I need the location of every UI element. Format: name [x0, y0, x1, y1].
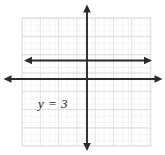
graph-figure: y = 3 [0, 0, 165, 155]
x-axis-right-arrowhead [155, 75, 163, 83]
y-axis-top-arrowhead [83, 5, 91, 13]
equation-label: y = 3 [38, 96, 68, 112]
coordinate-plane-graphic [0, 0, 165, 155]
y-axis-bottom-arrowhead [83, 143, 91, 151]
origin-point [86, 78, 89, 81]
x-axis-left-arrowhead [4, 75, 12, 83]
